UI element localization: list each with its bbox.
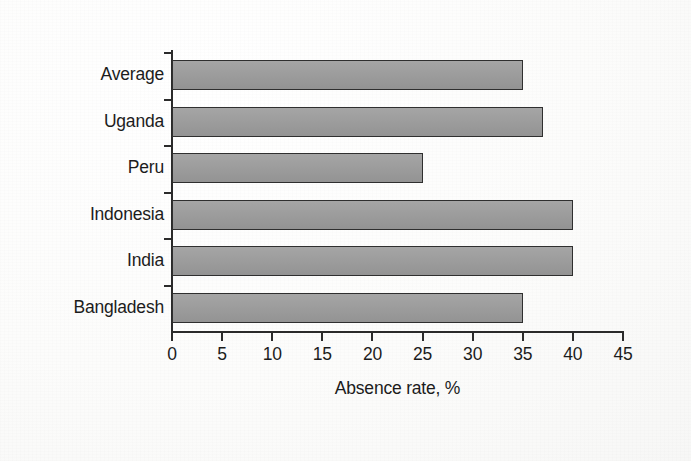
x-axis-tick <box>522 333 524 341</box>
y-axis-label-peru: Peru <box>4 157 164 178</box>
x-axis-tick <box>221 333 223 341</box>
x-axis-title: Absence rate, % <box>171 378 624 399</box>
bar-india <box>172 246 573 276</box>
x-axis-tick-label-20: 20 <box>350 344 394 365</box>
x-axis-tick <box>321 333 323 341</box>
y-axis-line <box>171 50 173 333</box>
x-axis-tick-label-10: 10 <box>250 344 294 365</box>
x-axis-tick-label-45: 45 <box>601 344 645 365</box>
x-axis-line <box>171 331 624 333</box>
y-axis-label-bangladesh: Bangladesh <box>4 297 164 318</box>
figure-root: AverageUgandaPeruIndonesiaIndiaBanglades… <box>0 0 691 461</box>
y-axis-label-india: India <box>4 250 164 271</box>
y-axis-label-indonesia: Indonesia <box>4 204 164 225</box>
x-axis-tick-label-35: 35 <box>501 344 545 365</box>
x-axis-tick <box>622 333 624 341</box>
x-axis-tick-label-15: 15 <box>300 344 344 365</box>
y-axis-tick <box>164 238 171 240</box>
y-axis-label-average: Average <box>4 64 164 85</box>
y-axis-tick <box>164 145 171 147</box>
y-axis-tick <box>164 52 171 54</box>
x-axis-tick-label-5: 5 <box>200 344 244 365</box>
x-axis-tick <box>371 333 373 341</box>
y-axis-tick <box>164 99 171 101</box>
bar-uganda <box>172 107 543 137</box>
bar-bangladesh <box>172 293 523 323</box>
x-axis-tick-label-0: 0 <box>150 344 194 365</box>
y-axis-tick <box>164 285 171 287</box>
x-axis-tick-label-25: 25 <box>401 344 445 365</box>
bar-indonesia <box>172 200 573 230</box>
bar-average <box>172 60 523 90</box>
x-axis-tick-label-30: 30 <box>451 344 495 365</box>
y-axis-tick <box>164 192 171 194</box>
x-axis-tick <box>171 333 173 341</box>
x-axis-tick <box>572 333 574 341</box>
y-axis-label-uganda: Uganda <box>4 111 164 132</box>
x-axis-tick-label-40: 40 <box>551 344 595 365</box>
x-axis-tick <box>271 333 273 341</box>
x-axis-tick <box>422 333 424 341</box>
y-axis-tick-labels: AverageUgandaPeruIndonesiaIndiaBanglades… <box>0 0 164 461</box>
plot-area: AverageUgandaPeruIndonesiaIndiaBanglades… <box>0 0 691 461</box>
bar-peru <box>172 153 423 183</box>
x-axis-tick <box>472 333 474 341</box>
